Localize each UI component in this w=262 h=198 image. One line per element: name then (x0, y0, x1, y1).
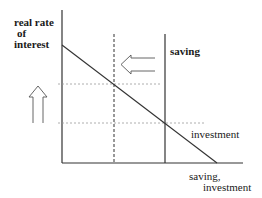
left-arrow-icon (121, 55, 155, 74)
y-axis-label-line3: interest (14, 39, 54, 50)
y-axis-label: real rate of interest (14, 17, 54, 50)
investment-curve (62, 45, 217, 163)
investment-label: investment (191, 129, 239, 140)
x-axis-label-line2: investment (189, 182, 251, 193)
up-arrow-icon (29, 86, 47, 123)
saving-label: saving (170, 46, 200, 57)
x-axis-label: saving, investment (189, 171, 251, 193)
